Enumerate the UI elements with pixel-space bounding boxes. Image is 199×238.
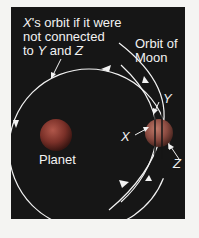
x-orbit-label-line-1: X's orbit if it were — [23, 16, 122, 30]
arrowhead-moon-top — [142, 76, 149, 83]
planet-label: Planet — [39, 153, 76, 167]
arrowhead-bottom — [119, 180, 129, 188]
x-orbit-label-line-3: to Y and Z — [23, 44, 122, 58]
point-y-label: Y — [163, 92, 172, 106]
pointer-z-head — [169, 144, 174, 150]
x-orbit-label-line-2: not connected — [23, 30, 122, 44]
arrowhead-moon-bottom — [145, 175, 152, 181]
arrowhead-left — [13, 120, 19, 128]
planet — [40, 119, 72, 151]
moon-orbit-label: Orbit of Moon — [135, 37, 178, 65]
diagram-panel: X's orbit if it were not connected to Y … — [11, 7, 185, 219]
x-free-orbit-circle — [11, 69, 169, 219]
point-z-label: Z — [173, 157, 181, 171]
point-x-label: X — [121, 130, 130, 144]
x-orbit-label: X's orbit if it were not connected to Y … — [23, 16, 122, 58]
moon — [145, 119, 173, 147]
pointer-x-orbit — [53, 59, 61, 75]
